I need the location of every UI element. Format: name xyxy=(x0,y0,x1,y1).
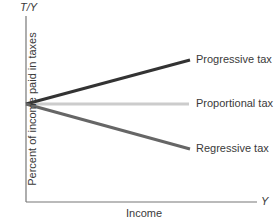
progressive-tax-line xyxy=(26,60,190,104)
regressive-tax-label: Regressive tax xyxy=(196,142,269,154)
x-axis-symbol: Y xyxy=(261,195,268,207)
y-axis-title: Percent of income paid in taxes xyxy=(26,29,38,189)
y-axis-symbol: T/Y xyxy=(20,1,37,13)
x-axis-title: Income xyxy=(126,207,162,219)
progressive-tax-label: Progressive tax xyxy=(196,53,272,65)
chart-canvas xyxy=(0,0,274,223)
proportional-tax-label: Proportional tax xyxy=(196,97,273,109)
regressive-tax-line xyxy=(26,104,190,149)
